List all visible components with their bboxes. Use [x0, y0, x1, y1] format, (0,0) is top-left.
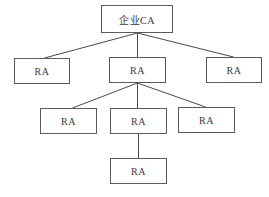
node-label: RA	[131, 116, 146, 127]
ra-node-level1-right: RA	[206, 57, 262, 83]
node-label: RA	[130, 65, 145, 76]
ra-node-level2-left: RA	[40, 108, 97, 134]
edge-ra2-ra4	[73, 83, 138, 108]
edge-root-ra3	[138, 33, 234, 57]
node-label: RA	[131, 166, 146, 177]
ra-node-level1-center: RA	[109, 57, 166, 83]
node-label: 企业CA	[119, 12, 155, 27]
node-label: RA	[199, 115, 214, 126]
ra-node-level3: RA	[110, 158, 167, 184]
edge-ra2-ra6	[138, 83, 206, 107]
node-label: RA	[227, 65, 242, 76]
edge-root-ra1	[45, 33, 138, 58]
node-label: RA	[61, 116, 76, 127]
enterprise-ca-node: 企业CA	[101, 5, 173, 33]
ra-node-level2-right: RA	[178, 107, 235, 133]
ra-node-level1-left: RA	[14, 58, 70, 84]
node-label: RA	[35, 66, 50, 77]
pki-hierarchy-diagram: 企业CA RA RA RA RA RA RA RA	[0, 0, 269, 197]
ra-node-level2-center: RA	[110, 108, 167, 134]
